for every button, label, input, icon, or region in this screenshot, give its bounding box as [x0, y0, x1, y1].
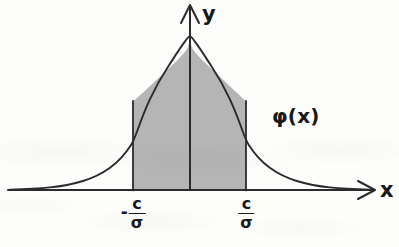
tick-right-denominator: σ: [238, 213, 254, 231]
tick-left-fraction: c σ: [129, 196, 145, 232]
tick-left-numerator: c: [130, 196, 143, 213]
distribution-plot: [0, 0, 399, 247]
curve-label-phi: φ(x): [272, 106, 320, 126]
tick-left-denominator: σ: [129, 213, 145, 231]
tick-right-fraction: c σ: [238, 196, 254, 232]
tick-left-sign: -: [121, 204, 128, 223]
x-tick-label-left: - c σ: [121, 196, 146, 232]
normal-distribution-figure: y x φ(x) - c σ c σ: [0, 0, 399, 247]
y-axis-label: y: [202, 4, 216, 25]
x-axis-label: x: [380, 180, 394, 201]
tick-right-numerator: c: [240, 196, 253, 213]
x-tick-label-right: c σ: [237, 196, 254, 232]
